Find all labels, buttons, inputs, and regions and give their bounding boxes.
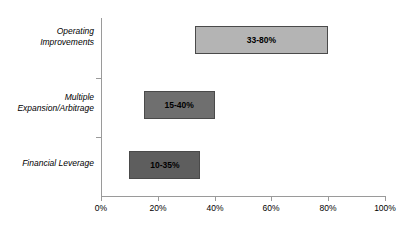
range-bar-financial-leverage: 10-35%	[129, 151, 200, 179]
bar-value-label: 15-40%	[164, 100, 193, 110]
x-axis-tick	[385, 196, 386, 201]
bar-value-label: 10-35%	[150, 160, 179, 170]
y-axis-tick	[96, 137, 101, 138]
x-axis-tick	[158, 196, 159, 201]
x-axis-line	[101, 196, 386, 197]
y-axis-tick	[96, 78, 101, 79]
category-label-operating-improvements: Operating Improvements	[40, 26, 94, 48]
category-label-financial-leverage: Financial Leverage	[22, 158, 94, 169]
x-axis-label-80: 80%	[308, 203, 348, 213]
x-axis-tick	[271, 196, 272, 201]
x-axis-label-0: 0%	[81, 203, 121, 213]
x-axis-label-40: 40%	[195, 203, 235, 213]
x-axis-tick	[215, 196, 216, 201]
x-axis-label-100: 100%	[365, 203, 405, 213]
x-axis-tick	[101, 196, 102, 201]
category-label-multiple-expansion-arbitrage: Multiple Expansion/Arbitrage	[17, 92, 94, 114]
range-bar-operating-improvements: 33-80%	[195, 26, 328, 54]
x-axis-label-20: 20%	[138, 203, 178, 213]
range-bar-multiple-expansion-arbitrage: 15-40%	[144, 91, 215, 119]
y-axis-line	[101, 18, 102, 196]
bar-value-label: 33-80%	[247, 35, 276, 45]
x-axis-tick	[328, 196, 329, 201]
range-bar-chart: Operating Improvements Multiple Expansio…	[0, 0, 409, 230]
x-axis-label-60: 60%	[251, 203, 291, 213]
